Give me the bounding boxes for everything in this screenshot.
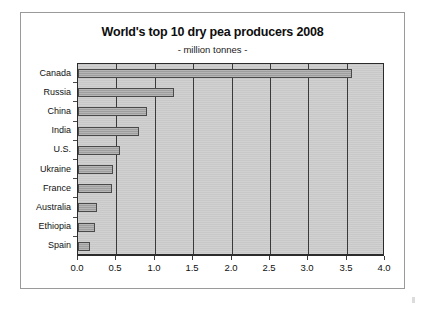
y-tick-mark (73, 197, 77, 198)
bar-row (78, 160, 383, 179)
y-tick-mark (73, 82, 77, 83)
x-tick-mark (192, 256, 193, 260)
y-tick-mark (73, 159, 77, 160)
bar-ethiopia (78, 223, 95, 232)
bar-u-s (78, 146, 120, 155)
bar-china (78, 107, 147, 116)
plot-area (77, 63, 384, 255)
x-tick-label: 3.5 (326, 262, 366, 273)
chart-subtitle: - million tonnes - (21, 44, 404, 55)
y-tick-label-australia: Australia (1, 202, 71, 212)
plot-wrap: CanadaRussiaChinaIndiaU.S.UkraineFranceA… (77, 63, 384, 255)
y-tick-mark (73, 121, 77, 122)
x-tick-mark (307, 256, 308, 260)
x-tick-label: 3.0 (287, 262, 327, 273)
bar-row (78, 64, 383, 83)
bar-spain (78, 242, 90, 251)
bar-russia (78, 88, 174, 97)
scan-artifact (412, 297, 415, 303)
y-tick-mark (73, 217, 77, 218)
bar-row (78, 218, 383, 237)
y-tick-label-france: France (1, 183, 71, 193)
x-tick-label: 2.0 (211, 262, 251, 273)
x-tick-mark (77, 256, 78, 260)
bar-row (78, 237, 383, 255)
bar-ukraine (78, 165, 113, 174)
x-tick-label: 4.0 (364, 262, 404, 273)
y-tick-label-ukraine: Ukraine (1, 164, 71, 174)
x-tick-label: 0.0 (57, 262, 97, 273)
bar-india (78, 127, 139, 136)
y-tick-mark (73, 178, 77, 179)
x-tick-label: 1.0 (134, 262, 174, 273)
bar-france (78, 184, 112, 193)
y-tick-mark (73, 140, 77, 141)
chart-title: World's top 10 dry pea producers 2008 (21, 25, 404, 39)
y-tick-label-spain: Spain (1, 240, 71, 250)
x-tick-label: 0.5 (95, 262, 135, 273)
y-tick-label-china: China (1, 106, 71, 116)
x-tick-label: 2.5 (249, 262, 289, 273)
y-tick-label-ethiopia: Ethiopia (1, 221, 71, 231)
x-tick-mark (346, 256, 347, 260)
bar-row (78, 102, 383, 121)
bar-australia (78, 203, 97, 212)
x-tick-mark (115, 256, 116, 260)
chart-frame: World's top 10 dry pea producers 2008 - … (20, 12, 405, 289)
y-axis-labels: CanadaRussiaChinaIndiaU.S.UkraineFranceA… (3, 63, 77, 255)
y-tick-mark (73, 101, 77, 102)
bar-canada (78, 69, 352, 78)
y-tick-label-russia: Russia (1, 87, 71, 97)
bar-row (78, 198, 383, 217)
bar-row (78, 83, 383, 102)
y-tick-label-india: India (1, 125, 71, 135)
x-tick-mark (154, 256, 155, 260)
y-tick-label-canada: Canada (1, 68, 71, 78)
y-tick-mark (73, 236, 77, 237)
bar-row (78, 141, 383, 160)
y-tick-label-u-s: U.S. (1, 144, 71, 154)
x-tick-mark (269, 256, 270, 260)
bar-row (78, 179, 383, 198)
bar-row (78, 122, 383, 141)
x-tick-mark (231, 256, 232, 260)
x-tick-label: 1.5 (172, 262, 212, 273)
x-tick-mark (384, 256, 385, 260)
